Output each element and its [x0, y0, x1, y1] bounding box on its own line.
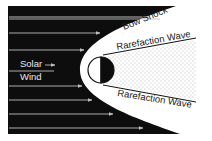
solar-wind-label-2: Wind [20, 71, 42, 82]
solar-wind-interaction-diagram: Solar Wind Bow Shock Rarefaction Wave Ra… [0, 0, 212, 141]
solar-wind-label: Solar [20, 58, 42, 69]
obstacle-body [88, 57, 114, 83]
